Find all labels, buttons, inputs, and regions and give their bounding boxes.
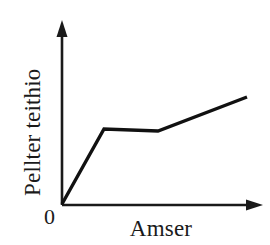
x-axis-label: Amser <box>130 216 192 241</box>
origin-label: 0 <box>44 204 55 229</box>
distance-time-chart: Pellter teithio Amser 0 <box>0 0 270 245</box>
y-axis-label: Pellter teithio <box>20 68 45 196</box>
